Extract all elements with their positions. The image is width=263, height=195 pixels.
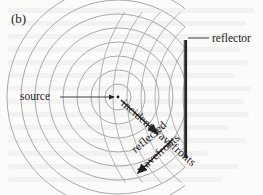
figure-panel-b: (b) reflector source incident wavefronts… — [0, 0, 263, 195]
reflected-wavefront — [239, 84, 263, 110]
reflected-wavefront — [211, 56, 263, 138]
reflector-label: reflector — [212, 32, 251, 44]
reflected-wavefront — [155, 0, 263, 194]
panel-label: (b) — [11, 12, 26, 26]
reflected-wavefront — [183, 28, 263, 166]
source-label: source — [20, 90, 50, 102]
source-point — [117, 96, 120, 99]
reflected-wavefront — [197, 42, 263, 152]
reflected-wavefront — [225, 70, 263, 124]
